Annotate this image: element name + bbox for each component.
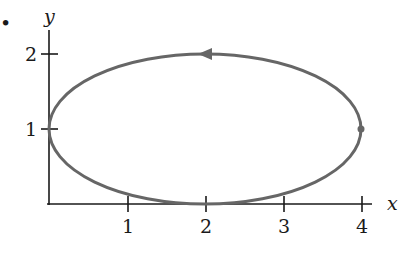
ellipse-curve — [49, 54, 361, 204]
start-point-dot — [358, 126, 365, 133]
y-tick-label-2: 2 — [25, 43, 37, 65]
y-axis-label: y — [43, 5, 55, 27]
y-tick-label-1: 1 — [25, 118, 37, 140]
x-tick-label-3: 3 — [278, 215, 290, 237]
direction-arrow-icon — [198, 48, 212, 60]
bullet-marker: • — [0, 12, 11, 34]
x-axis-label: x — [387, 192, 398, 214]
x-tick-label-2: 2 — [200, 215, 212, 237]
x-tick-label-1: 1 — [122, 215, 134, 237]
x-tick-label-4: 4 — [356, 215, 368, 237]
ellipse-figure: • y 2 1 x 1 2 3 4 — [0, 0, 410, 256]
